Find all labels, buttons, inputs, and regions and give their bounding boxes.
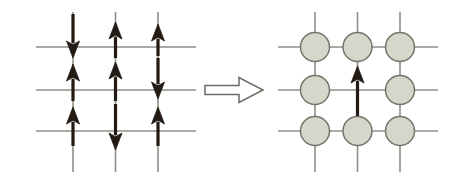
figure-root	[0, 0, 467, 177]
node-r1-c2-particle-circle	[386, 76, 415, 105]
node-r1-c0-particle-circle	[301, 76, 330, 105]
node-r2-c1-particle-circle	[343, 117, 372, 146]
lattice-transformation-figure	[0, 0, 467, 177]
node-r0-c1-particle-circle	[343, 33, 372, 62]
node-r2-c2-particle-circle	[386, 117, 415, 146]
node-r2-c0-particle-circle	[301, 117, 330, 146]
node-r0-c0-particle-circle	[301, 33, 330, 62]
node-r0-c2-particle-circle	[386, 33, 415, 62]
